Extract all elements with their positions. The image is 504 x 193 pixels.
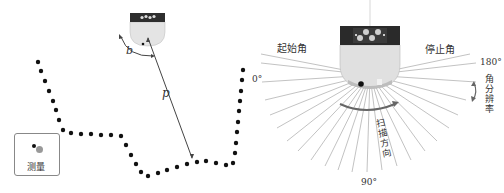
deg-0-label: 0° [252, 74, 262, 84]
distance-symbol-label: p [162, 86, 170, 100]
deg-90-label: 90° [361, 177, 377, 187]
distance-line [148, 38, 192, 158]
deg-180-label: 180° [480, 57, 502, 67]
angle-symbol-label: b [126, 44, 133, 57]
lidar-sensor-right [340, 26, 400, 89]
start-angle-label: 起始角 [277, 40, 307, 55]
legend-label: 测量 [27, 160, 45, 173]
diagram-canvas [0, 0, 504, 193]
angular-resolution-label: 角分辨率 [483, 74, 496, 114]
stop-angle-label: 停止角 [425, 41, 455, 56]
sensor-point-icon [36, 146, 43, 153]
legend-box: 测量 [14, 133, 60, 176]
contour-points [36, 60, 245, 178]
